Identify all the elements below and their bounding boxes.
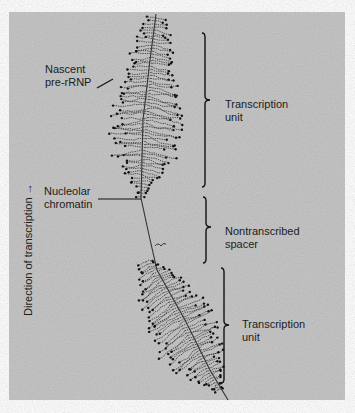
rnp-terminal-knob <box>219 376 221 378</box>
rnp-terminal-knob <box>216 326 218 328</box>
rnp-terminal-knob <box>162 22 164 24</box>
rnp-terminal-knob <box>139 284 141 286</box>
rnp-terminal-knob <box>138 278 140 280</box>
rnp-terminal-knob <box>131 59 133 61</box>
rnp-terminal-knob <box>132 65 134 67</box>
rnp-terminal-knob <box>182 286 184 288</box>
rnp-terminal-knob <box>141 272 143 274</box>
rnp-terminal-knob <box>158 358 160 360</box>
rnp-terminal-knob <box>195 304 197 306</box>
rnp-terminal-knob <box>127 171 129 173</box>
direction-of-transcription-label: Direction of transcription → <box>22 183 34 316</box>
rnp-terminal-knob <box>121 117 123 119</box>
rnp-terminal-knob <box>141 309 143 311</box>
rnp-terminal-knob <box>125 168 127 170</box>
rnp-terminal-knob <box>165 342 167 344</box>
rnp-terminal-knob <box>153 326 155 328</box>
rnp-terminal-knob <box>182 281 184 283</box>
rnp-terminal-knob <box>210 309 212 311</box>
rnp-terminal-knob <box>218 343 220 345</box>
rnp-terminal-knob <box>135 50 137 52</box>
label-nascent-pre-rrnp: Nascent pre-rRNP <box>45 63 91 88</box>
rnp-terminal-knob <box>217 351 219 353</box>
rnp-terminal-knob <box>166 139 168 141</box>
rnp-terminal-knob <box>171 274 173 276</box>
rnp-terminal-knob <box>172 129 174 131</box>
rnp-terminal-knob <box>219 361 221 363</box>
rnp-terminal-knob <box>174 148 176 150</box>
rnp-terminal-knob <box>152 261 154 263</box>
rnp-terminal-knob <box>213 356 215 358</box>
rnp-terminal-knob <box>188 368 190 370</box>
rnp-terminal-knob <box>135 196 137 198</box>
rnp-terminal-knob <box>148 331 150 333</box>
rnp-terminal-knob <box>137 192 139 194</box>
rnp-terminal-knob <box>175 96 177 98</box>
rnp-terminal-knob <box>173 276 175 278</box>
rnp-terminal-knob <box>147 307 149 309</box>
rnp-terminal-knob <box>122 101 124 103</box>
rnp-terminal-knob <box>163 163 165 165</box>
rnp-terminal-knob <box>141 293 143 295</box>
rnp-terminal-knob <box>142 23 144 25</box>
rnp-terminal-knob <box>138 268 140 270</box>
rnp-terminal-knob <box>194 376 196 378</box>
rnp-terminal-knob <box>173 125 175 127</box>
rnp-terminal-knob <box>218 357 220 359</box>
rnp-terminal-knob <box>121 123 123 125</box>
label-line: Nucleolar <box>44 185 92 198</box>
rnp-terminal-knob <box>150 182 152 184</box>
rnp-terminal-knob <box>195 294 197 296</box>
rnp-terminal-knob <box>181 129 183 131</box>
rnp-terminal-knob <box>202 297 204 299</box>
rnp-terminal-knob <box>117 155 119 157</box>
rnp-terminal-knob <box>189 379 191 381</box>
label-nucleolar-chromatin: Nucleolar chromatin <box>44 185 92 210</box>
rnp-terminal-knob <box>147 187 149 189</box>
arrow-right-icon: → <box>22 183 34 194</box>
rnp-terminal-knob <box>208 384 210 386</box>
rnp-terminal-knob <box>165 27 167 29</box>
rnp-terminal-knob <box>126 68 128 70</box>
rnp-terminal-knob <box>122 165 124 167</box>
rnp-terminal-knob <box>172 79 174 81</box>
rnp-terminal-knob <box>146 301 148 303</box>
rnp-terminal-knob <box>168 78 170 80</box>
rnp-terminal-knob <box>176 114 178 116</box>
rnp-terminal-knob <box>203 319 205 321</box>
rnp-terminal-knob <box>169 119 171 121</box>
rnp-terminal-knob <box>172 145 174 147</box>
rnp-terminal-knob <box>148 184 150 186</box>
rnp-terminal-knob <box>178 369 180 371</box>
rnp-terminal-knob <box>193 370 195 372</box>
rnp-terminal-knob <box>188 285 190 287</box>
rnp-terminal-knob <box>131 177 133 179</box>
rnp-terminal-knob <box>168 268 170 270</box>
rnp-terminal-knob <box>124 172 126 174</box>
label-line: Transcription <box>242 318 305 331</box>
rnp-terminal-knob <box>189 291 191 293</box>
rnp-terminal-knob <box>111 154 113 156</box>
rnp-terminal-knob <box>175 157 177 159</box>
rnp-terminal-knob <box>152 309 154 311</box>
rnp-terminal-knob <box>146 190 148 192</box>
rnp-terminal-knob <box>175 103 177 105</box>
rnp-terminal-knob <box>124 132 126 134</box>
label-line: unit <box>242 331 305 344</box>
rnp-terminal-knob <box>165 156 167 158</box>
rnp-terminal-knob <box>148 320 150 322</box>
rnp-terminal-knob <box>136 35 138 37</box>
rnp-terminal-knob <box>148 311 150 313</box>
rnp-terminal-knob <box>216 321 218 323</box>
rnp-terminal-knob <box>203 302 205 304</box>
label-line: unit <box>225 111 288 124</box>
rnp-terminal-knob <box>209 331 211 333</box>
rnp-terminal-knob <box>108 133 110 135</box>
rnp-terminal-knob <box>170 62 172 64</box>
rnp-terminal-knob <box>167 54 169 56</box>
rnp-terminal-knob <box>178 361 180 363</box>
rnp-terminal-knob <box>172 369 174 371</box>
rnp-terminal-knob <box>117 125 119 127</box>
rnp-terminal-knob <box>165 19 167 21</box>
rnp-terminal-knob <box>162 35 164 37</box>
